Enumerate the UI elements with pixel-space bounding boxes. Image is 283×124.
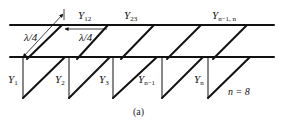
- quarter-wave-link: [213, 25, 247, 59]
- quarter-wave-link: [121, 25, 154, 59]
- label-y3: Y3: [99, 74, 109, 87]
- label-y12: Y12: [78, 10, 91, 23]
- label-yn1n: Yn−1, n: [212, 10, 236, 23]
- label-yn-1: Yn−1: [138, 74, 155, 87]
- quarter-wave-links: [27, 25, 247, 59]
- label-y23: Y23: [124, 10, 137, 23]
- label-n-equals-8: n = 8: [228, 87, 250, 97]
- label-y1: Y1: [8, 74, 18, 87]
- label-quarter-wave-horiz: λ/4: [79, 32, 92, 43]
- label-y2: Y2: [55, 74, 65, 87]
- label-yn: Yn: [194, 74, 204, 87]
- figure-caption: (a): [133, 106, 144, 117]
- transmission-lines: [10, 25, 274, 57]
- quarter-wave-link: [167, 25, 201, 59]
- label-quarter-wave-diag: λ/4: [24, 32, 37, 43]
